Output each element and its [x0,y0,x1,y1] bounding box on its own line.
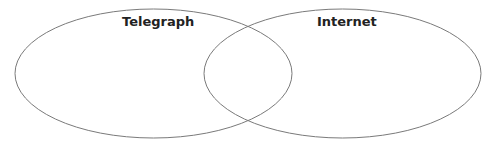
telegraph-label: Telegraph [122,14,194,29]
venn-diagram [0,0,492,145]
internet-label: Internet [317,14,377,29]
